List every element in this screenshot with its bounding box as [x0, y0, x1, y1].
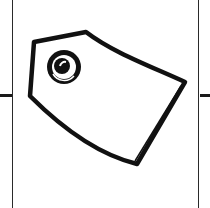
price-tag-icon [0, 0, 210, 208]
